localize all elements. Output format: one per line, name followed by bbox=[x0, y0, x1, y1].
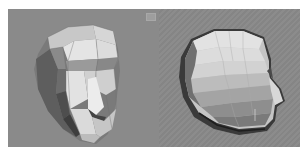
head-mesh-side[interactable] bbox=[159, 9, 300, 147]
viewport-left[interactable]: Perspective bbox=[8, 9, 159, 147]
head-mesh-front[interactable] bbox=[8, 9, 159, 147]
viewport-right[interactable]: Perspective bbox=[159, 9, 300, 147]
